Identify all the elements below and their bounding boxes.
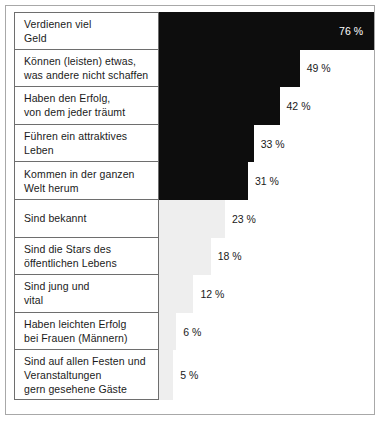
bar [159, 200, 225, 238]
category-label: Haben den Erfolg, von dem jeder träumt [24, 91, 125, 119]
bar-value-label: 6 % [183, 326, 201, 338]
category-label-cell: Sind die Stars des öffentlichen Lebens [14, 238, 159, 276]
bar [159, 275, 193, 313]
chart-plot-area: Verdienen viel Geld76 %Können (leisten) … [6, 6, 374, 414]
bar [159, 238, 211, 276]
bar-value-label: 49 % [307, 62, 331, 74]
bar [159, 50, 300, 88]
bar-value-label: 31 % [255, 175, 279, 187]
category-label: Sind jung und vital [24, 279, 90, 307]
bar [159, 162, 248, 200]
bar [159, 125, 254, 163]
category-label-cell: Sind auf allen Festen und Veranstaltunge… [14, 350, 159, 400]
category-label: Haben leichten Erfolg bei Frauen (Männer… [24, 317, 128, 345]
bar-value-label: 42 % [287, 100, 311, 112]
category-label: Führen ein attraktives Leben [24, 129, 127, 157]
category-label-cell: Führen ein attraktives Leben [14, 125, 159, 163]
category-label-cell: Kommen in der ganzen Welt herum [14, 162, 159, 200]
category-label: Können (leisten) etwas, was andere nicht… [24, 54, 148, 82]
bar-value-label: 33 % [261, 138, 285, 150]
category-label-cell: Sind bekannt [14, 200, 159, 238]
bar-value-label: 23 % [232, 213, 256, 225]
category-label-cell: Haben leichten Erfolg bei Frauen (Männer… [14, 313, 159, 351]
category-label: Verdienen viel Geld [24, 17, 91, 45]
bar [159, 350, 173, 400]
category-label-cell: Können (leisten) etwas, was andere nicht… [14, 50, 159, 88]
chart-figure: Verdienen viel Geld76 %Können (leisten) … [0, 0, 383, 426]
category-label-cell: Sind jung und vital [14, 275, 159, 313]
category-label: Kommen in der ganzen Welt herum [24, 167, 135, 195]
category-label: Sind auf allen Festen und Veranstaltunge… [24, 354, 146, 396]
category-label: Sind bekannt [24, 211, 87, 225]
bar [159, 87, 280, 125]
category-label-cell: Haben den Erfolg, von dem jeder träumt [14, 87, 159, 125]
bar [159, 313, 176, 351]
bar-value-label: 76 % [339, 25, 363, 37]
bar-value-label: 12 % [200, 288, 224, 300]
category-label: Sind die Stars des öffentlichen Lebens [24, 242, 117, 270]
bar-value-label: 5 % [180, 369, 198, 381]
category-label-cell: Verdienen viel Geld [14, 12, 159, 50]
bar-value-label: 18 % [218, 250, 242, 262]
